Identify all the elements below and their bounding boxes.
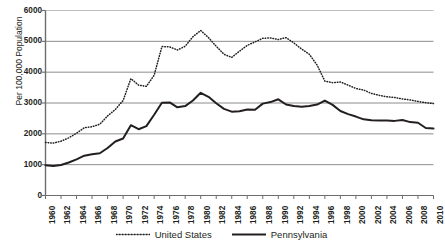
x-tick-label: 1966 — [95, 206, 103, 224]
x-tick-label: 2010 — [437, 206, 445, 224]
y-tick-label: 4000 — [8, 68, 42, 76]
legend-item-united-states[interactable]: United States — [116, 229, 212, 240]
x-tick-label: 2002 — [375, 206, 383, 224]
y-tick-label: 2000 — [8, 130, 42, 138]
legend-item-pennsylvania[interactable]: Pennsylvania — [232, 229, 328, 240]
series-line-united-states — [46, 31, 434, 144]
x-tick-label: 1972 — [142, 206, 150, 224]
y-tick-label: 0 — [8, 192, 42, 200]
x-tick-label: 1978 — [188, 206, 196, 224]
x-tick-label: 1984 — [235, 206, 243, 224]
chart-legend: United States Pennsylvania — [0, 226, 443, 242]
x-tick-label: 1962 — [64, 206, 72, 224]
x-tick-label: 1996 — [328, 206, 336, 224]
y-tick-label: 5000 — [8, 37, 42, 45]
x-tick-label: 1986 — [250, 206, 258, 224]
x-tick-label: 1970 — [126, 206, 134, 224]
y-tick-label: 1000 — [8, 161, 42, 169]
chart-title — [0, 0, 443, 3]
legend-label-pennsylvania: Pennsylvania — [271, 229, 328, 240]
x-tick-label: 1990 — [282, 206, 290, 224]
x-tick-label: 1968 — [111, 206, 119, 224]
x-tick-label: 2008 — [421, 206, 429, 224]
y-tick-label: 3000 — [8, 99, 42, 107]
x-tick-label: 1998 — [344, 206, 352, 224]
x-tick-label: 1992 — [297, 206, 305, 224]
dotted-line-swatch — [116, 231, 150, 238]
x-tick-label: 2006 — [406, 206, 414, 224]
x-tick-label: 1960 — [49, 206, 57, 224]
y-axis-tick-labels: 6000500040003000200010000 — [6, 0, 42, 200]
y-tick-label: 6000 — [8, 7, 42, 15]
legend-label-united-states: United States — [155, 229, 212, 240]
x-tick-label: 2004 — [390, 206, 398, 224]
solid-line-swatch — [232, 231, 266, 238]
x-tick-label: 2000 — [359, 206, 367, 224]
x-tick-label: 1982 — [219, 206, 227, 224]
x-tick-label: 1994 — [313, 206, 321, 224]
x-tick-label: 1964 — [80, 206, 88, 224]
x-tick-label: 1988 — [266, 206, 274, 224]
x-tick-label: 1974 — [157, 206, 165, 224]
x-tick-label: 1980 — [204, 206, 212, 224]
series-line-pennsylvania — [46, 93, 434, 166]
x-tick-label: 1976 — [173, 206, 181, 224]
